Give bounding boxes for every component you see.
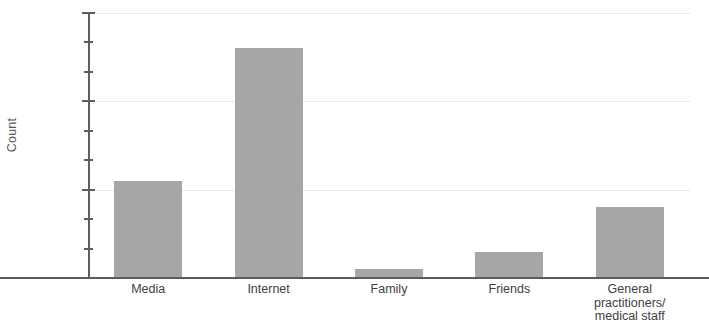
bar xyxy=(596,207,664,278)
x-tick-label: Generalpractitioners/medical staff xyxy=(570,283,690,324)
x-tick-label-line: Friends xyxy=(449,283,569,297)
y-tick-major xyxy=(82,277,95,279)
y-axis-title: Count xyxy=(5,105,19,165)
y-axis-line xyxy=(88,12,90,279)
gridline xyxy=(88,13,690,14)
x-tick-label-line: Family xyxy=(329,283,449,297)
x-tick-label: Friends xyxy=(449,283,569,297)
x-tick-label-line: Media xyxy=(88,283,208,297)
y-tick-minor xyxy=(84,159,93,161)
x-tick-label: Internet xyxy=(208,283,328,297)
y-tick-minor xyxy=(84,130,93,132)
y-tick-major xyxy=(82,12,95,14)
x-tick-label-line: medical staff xyxy=(570,310,690,324)
bar-chart-figure: Count 0102030 MediaInternetFamilyFriends… xyxy=(0,0,709,331)
x-axis-tick-labels: MediaInternetFamilyFriendsGeneralpractit… xyxy=(88,283,690,331)
x-tick-label-line: Internet xyxy=(208,283,328,297)
gridline xyxy=(88,101,690,102)
x-tick-label: Media xyxy=(88,283,208,297)
y-tick-major xyxy=(82,189,95,191)
y-tick-minor xyxy=(84,41,93,43)
x-tick-label: Family xyxy=(329,283,449,297)
x-tick-label-line: General xyxy=(570,283,690,297)
plot-area xyxy=(88,13,690,278)
bar xyxy=(235,48,303,278)
y-tick-minor xyxy=(84,248,93,250)
x-tick-label-line: practitioners/ xyxy=(570,297,690,311)
bar xyxy=(114,181,182,278)
y-tick-minor xyxy=(84,71,93,73)
x-axis-line xyxy=(0,277,709,279)
y-tick-major xyxy=(82,100,95,102)
y-tick-minor xyxy=(84,218,93,220)
bar xyxy=(475,252,543,279)
